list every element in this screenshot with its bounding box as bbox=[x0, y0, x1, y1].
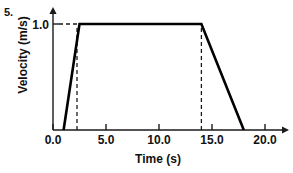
velocity-curve bbox=[64, 24, 244, 130]
x-axis-arrow-icon bbox=[282, 126, 289, 133]
y-axis-arrow-icon bbox=[49, 7, 56, 14]
plot-area bbox=[0, 0, 293, 173]
velocity-time-figure: 5. Velocity (m/s) Time (s) 1.0 0.0 5.0 1… bbox=[0, 0, 293, 173]
